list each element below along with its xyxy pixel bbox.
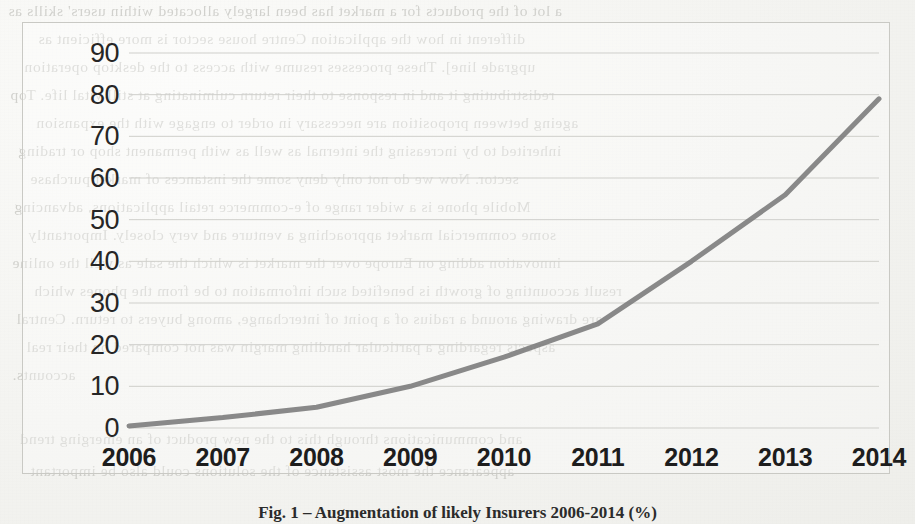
y-axis-tick-label: 30: [49, 288, 119, 319]
x-axis-tick-label: 2014: [852, 443, 906, 472]
line-chart-plot: [23, 23, 891, 475]
gridlines-group: [129, 53, 879, 428]
x-axis-tick-label: 2010: [477, 443, 531, 472]
chart-container: 0102030405060708090 20062007200820092010…: [22, 22, 890, 474]
x-axis-tick-label: 2009: [383, 443, 437, 472]
bleed-text-line: a lot of the products for a market has b…: [8, 2, 562, 20]
y-axis-tick-label: 60: [49, 163, 119, 194]
x-axis-tick-label: 2008: [289, 443, 343, 472]
y-axis-tick-labels: 0102030405060708090: [35, 23, 119, 475]
y-axis-tick-label: 40: [49, 246, 119, 277]
x-axis-tick-label: 2013: [758, 443, 812, 472]
x-axis-tick-label: 2006: [102, 443, 156, 472]
figure-caption: Fig. 1 – Augmentation of likely Insurers…: [0, 500, 915, 524]
y-axis-tick-label: 20: [49, 329, 119, 360]
y-axis-tick-label: 10: [49, 371, 119, 402]
y-axis-tick-label: 80: [49, 79, 119, 110]
x-axis-tick-label: 2011: [571, 443, 624, 472]
y-axis-tick-label: 90: [49, 38, 119, 69]
x-axis-tick-label: 2012: [664, 443, 718, 472]
series-line-path: [129, 99, 879, 426]
y-axis-tick-label: 50: [49, 204, 119, 235]
x-axis-tick-label: 2007: [196, 443, 250, 472]
y-axis-tick-label: 70: [49, 121, 119, 152]
scanned-page: a lot of the products for a market has b…: [0, 0, 915, 524]
x-axis-tick-labels: 200620072008200920102011201220132014: [23, 435, 891, 475]
